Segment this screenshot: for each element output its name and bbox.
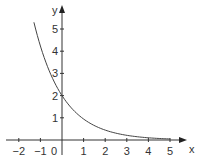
x-tick-label: 3 [124,145,130,157]
x-tick-label: 4 [145,145,151,157]
x-axis-arrow-icon [179,137,187,143]
y-tick-label: 2 [52,90,58,102]
chart-plot: x y −2−1012345 12345 [0,0,199,159]
y-tick-label: 1 [52,112,58,124]
axes: x y [6,4,195,155]
x-tick-label: 0 [51,145,57,157]
y-tick-label: 4 [52,45,58,57]
x-tick-label: 5 [167,145,173,157]
x-ticks: −2−1012345 [13,138,174,157]
x-tick-label: 2 [102,145,108,157]
x-tick-label: −2 [13,145,26,157]
y-tick-label: 5 [52,23,58,35]
x-tick-label: 1 [81,145,87,157]
x-tick-label: −1 [34,145,47,157]
y-tick-label: 3 [52,67,58,79]
x-axis-label: x [189,143,195,155]
y-axis-label: y [52,4,58,16]
y-axis-arrow-icon [59,5,65,13]
